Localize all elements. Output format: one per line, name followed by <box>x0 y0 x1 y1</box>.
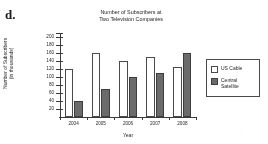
bar-chart-figure: Number of Subscribers at Two Television … <box>0 0 268 144</box>
y-tick-label-20: 20 <box>40 107 54 112</box>
bar-2006-us-cable <box>119 61 128 117</box>
bar-2004-central-satellite <box>74 101 83 117</box>
y-tick-label-text: 20 <box>40 107 54 112</box>
y-tick-label-text: 120 <box>40 67 54 72</box>
y-tick-label-100: 100 <box>40 75 54 80</box>
y-tick-label-text: 180 <box>40 43 54 48</box>
legend-label-us-cable: US Cable <box>221 65 242 71</box>
x-axis-title: Year <box>60 132 196 138</box>
x-tick-label-2007: 2007 <box>143 121 167 126</box>
bar-2005-central-satellite <box>101 89 110 117</box>
x-tick-label-2004: 2004 <box>62 121 86 126</box>
x-tick-2007 <box>169 117 170 120</box>
y-tick-label-160: 160 <box>40 51 54 56</box>
x-tick-label-2008: 2008 <box>170 121 194 126</box>
y-axis-title: Number of Subscribers (in thousands) <box>2 24 15 102</box>
legend-item-central-satellite: Central Satellite <box>211 77 239 90</box>
bar-2004-us-cable <box>65 69 74 117</box>
y-tick-label-text: 60 <box>40 91 54 96</box>
x-tick-2004 <box>87 117 88 120</box>
x-tick-2008 <box>196 117 197 120</box>
y-tick-label-text: 140 <box>40 59 54 64</box>
bar-2008-central-satellite <box>183 53 192 117</box>
y-tick-label-text: 160 <box>40 51 54 56</box>
bar-2008-us-cable <box>173 67 182 117</box>
plot-area <box>60 33 196 117</box>
legend-swatch-us-cable <box>211 66 218 73</box>
x-tick-2006 <box>142 117 143 120</box>
bar-2005-us-cable <box>92 53 101 117</box>
legend-item-us-cable: US Cable <box>211 65 242 73</box>
x-tick-label-2006: 2006 <box>116 121 140 126</box>
y-tick-label-120: 120 <box>40 67 54 72</box>
y-tick-label-text: 80 <box>40 83 54 88</box>
chart-legend: US Cable Central Satellite <box>206 59 260 97</box>
bar-2007-central-satellite <box>156 73 165 117</box>
y-tick-label-140: 140 <box>40 59 54 64</box>
chart-title: Number of Subscribers at Two Television … <box>72 9 190 23</box>
y-tick-label-text: 40 <box>40 99 54 104</box>
x-axis-line <box>59 117 197 118</box>
y-tick-label-text: 200 <box>40 35 54 40</box>
bar-2006-central-satellite <box>129 77 138 117</box>
x-tick-origin <box>60 117 61 120</box>
legend-swatch-central-satellite <box>211 78 218 85</box>
y-tick-label-60: 60 <box>40 91 54 96</box>
y-tick-label-text: 100 <box>40 75 54 80</box>
y-tick-label-80: 80 <box>40 83 54 88</box>
legend-label-central-satellite: Central Satellite <box>221 77 239 90</box>
bar-2007-us-cable <box>146 57 155 117</box>
y-tick-label-40: 40 <box>40 99 54 104</box>
x-tick-label-2005: 2005 <box>89 121 113 126</box>
y-tick-label-180: 180 <box>40 43 54 48</box>
x-tick-2005 <box>114 117 115 120</box>
y-tick-label-200: 200 <box>40 35 54 40</box>
